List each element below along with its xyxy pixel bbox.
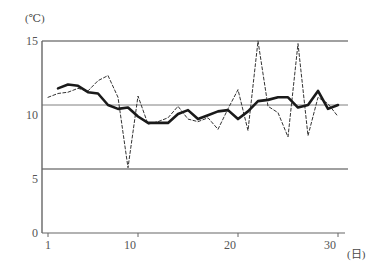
plot-area (0, 0, 389, 278)
series-line-smoothed-temperature (58, 85, 338, 123)
y-axis-tick-marks (48, 233, 338, 237)
axis-lines (42, 41, 345, 233)
gridlines (42, 41, 348, 169)
temperature-line-chart: (℃) (日) 15 10 5 0 1 10 20 30 (0, 0, 389, 278)
